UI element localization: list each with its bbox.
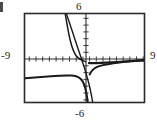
graph-svg [0, 0, 157, 123]
axis-label-bottom: -6 [75, 108, 84, 119]
axis-label-right: 9 [150, 50, 156, 61]
figure-canvas: 6 -6 -9 9 [0, 0, 157, 123]
axis-label-top: 6 [76, 1, 82, 12]
axis-label-left: -9 [1, 50, 10, 61]
